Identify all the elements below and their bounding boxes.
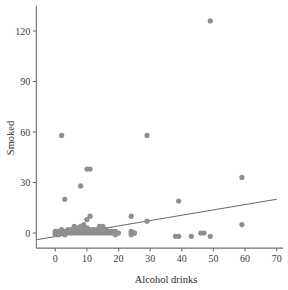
y-axis-title: Smoked bbox=[5, 120, 16, 155]
data-point bbox=[132, 230, 137, 235]
data-point bbox=[87, 214, 92, 219]
data-points-group bbox=[53, 18, 245, 239]
data-point bbox=[62, 197, 67, 202]
data-point bbox=[239, 175, 244, 180]
data-point bbox=[87, 166, 92, 171]
y-axis-ticks-group: 0306090120 bbox=[15, 26, 36, 239]
data-point bbox=[81, 225, 86, 230]
y-tick-label: 60 bbox=[20, 127, 30, 138]
scatter-plot-figure: 010203040506070 0306090120 Alcohol drink… bbox=[0, 0, 288, 290]
data-point bbox=[176, 198, 181, 203]
x-axis-ticks-group: 010203040506070 bbox=[53, 248, 282, 264]
data-point bbox=[59, 133, 64, 138]
data-point bbox=[201, 230, 206, 235]
x-tick-label: 60 bbox=[240, 253, 250, 264]
x-axis-title: Alcohol drinks bbox=[135, 274, 198, 285]
data-point bbox=[208, 234, 213, 239]
x-tick-label: 0 bbox=[53, 253, 58, 264]
data-point bbox=[94, 227, 99, 232]
data-point bbox=[144, 219, 149, 224]
x-tick-label: 50 bbox=[208, 253, 218, 264]
y-tick-label: 0 bbox=[25, 228, 30, 239]
data-point bbox=[72, 224, 77, 229]
x-tick-label: 30 bbox=[145, 253, 155, 264]
x-tick-label: 10 bbox=[82, 253, 92, 264]
data-point bbox=[239, 222, 244, 227]
axes-group bbox=[36, 6, 283, 248]
chart-canvas: 010203040506070 0306090120 Alcohol drink… bbox=[0, 0, 288, 290]
data-point bbox=[100, 224, 105, 229]
y-tick-label: 120 bbox=[15, 26, 30, 37]
y-tick-label: 30 bbox=[20, 177, 30, 188]
data-point bbox=[78, 183, 83, 188]
x-tick-label: 20 bbox=[114, 253, 124, 264]
data-point bbox=[116, 230, 121, 235]
data-point bbox=[129, 214, 134, 219]
y-tick-label: 90 bbox=[20, 76, 30, 87]
data-point bbox=[144, 133, 149, 138]
data-point bbox=[208, 18, 213, 23]
x-tick-label: 70 bbox=[272, 253, 282, 264]
data-point bbox=[189, 234, 194, 239]
data-point bbox=[176, 234, 181, 239]
x-tick-label: 40 bbox=[177, 253, 187, 264]
